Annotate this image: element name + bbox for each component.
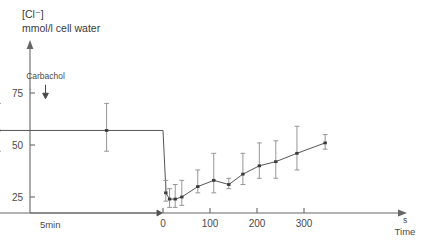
- y-axis-unit-label: mmol/l cell water: [22, 22, 101, 34]
- annotations-group: PhloretinCarbachol: [0, 71, 65, 99]
- y-tick-label: 75: [12, 88, 24, 99]
- series-baseline: [0, 93, 163, 157]
- x-tick-label: 200: [249, 218, 266, 229]
- chart-svg: PhloretinCarbachol 255075010020030010min…: [0, 0, 423, 248]
- y-tick-label: 50: [12, 140, 24, 151]
- annotation-arrow-head: [43, 93, 49, 99]
- stray-mark: [30, 89, 31, 90]
- data-point-marker: [105, 129, 108, 132]
- data-point-marker: [196, 185, 199, 188]
- data-point-marker: [227, 183, 230, 186]
- data-point-marker: [174, 198, 177, 201]
- series-recovery: [163, 126, 327, 207]
- time-span-label: 5min: [40, 219, 61, 230]
- x-tick-label: 0: [160, 218, 166, 229]
- y-axis-arrowhead: [27, 40, 34, 49]
- x-tick-label: 300: [296, 218, 313, 229]
- x-axis-unit-label: s: [403, 215, 407, 225]
- data-point-marker: [180, 196, 183, 199]
- data-point-marker: [168, 198, 171, 201]
- data-point-marker: [241, 173, 244, 176]
- series-group: [0, 93, 328, 207]
- chart-container: PhloretinCarbachol 255075010020030010min…: [0, 0, 423, 248]
- data-point-marker: [274, 160, 277, 163]
- data-point-marker: [212, 179, 215, 182]
- axes-group: [0, 40, 407, 216]
- x-tick-label: 100: [202, 218, 219, 229]
- chart-title-text: [Cl⁻]: [22, 8, 44, 20]
- data-point-marker: [164, 191, 167, 194]
- labels-group: 255075010020030010min5min[Cl⁻]mmol/l cel…: [0, 8, 415, 237]
- data-point-marker: [323, 142, 326, 145]
- annotation-label: Carbachol: [26, 71, 65, 81]
- time-span-cap-right: [157, 210, 162, 216]
- data-point-marker: [295, 152, 298, 155]
- x-axis-title-text: Time: [395, 226, 416, 237]
- recovery-trend-line: [166, 143, 325, 199]
- data-point-marker: [258, 164, 261, 167]
- y-tick-label: 25: [12, 192, 24, 203]
